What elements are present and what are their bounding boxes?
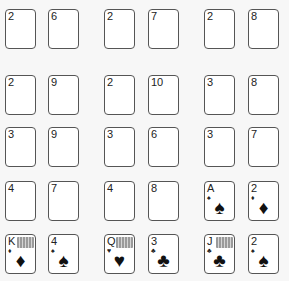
card-rank: Q (107, 236, 116, 247)
card-3[interactable]: 3 (204, 127, 235, 167)
card-rank: 4 (8, 183, 14, 194)
card-4[interactable]: 4 (5, 181, 36, 221)
card-3-of-clubs[interactable]: 3♣♣ (148, 234, 179, 274)
card-rank: 2 (107, 77, 113, 88)
diamonds-icon: ♦ (6, 251, 35, 270)
card-rank: 3 (151, 236, 157, 247)
diamonds-icon: ♦ (249, 198, 278, 217)
face-card-portrait-icon (17, 237, 34, 248)
card-rank: 7 (151, 11, 157, 22)
card-rank: 6 (151, 129, 157, 140)
card-rank: 2 (8, 77, 14, 88)
card-j-of-clubs[interactable]: J♣♣ (204, 234, 235, 274)
card-2-of-diamonds[interactable]: 2♦♦ (248, 181, 279, 221)
card-rank: 9 (51, 77, 57, 88)
card-rank: 8 (151, 183, 157, 194)
card-rank: 8 (251, 77, 257, 88)
card-3[interactable]: 3 (104, 127, 135, 167)
card-6[interactable]: 6 (148, 127, 179, 167)
card-2[interactable]: 2 (204, 9, 235, 49)
face-card-portrait-icon (116, 237, 133, 248)
card-rank: 4 (107, 183, 113, 194)
card-rank: 9 (51, 129, 57, 140)
card-9[interactable]: 9 (48, 127, 79, 167)
card-7[interactable]: 7 (248, 127, 279, 167)
card-rank: 2 (107, 11, 113, 22)
card-rank: 7 (251, 129, 257, 140)
card-9[interactable]: 9 (48, 75, 79, 115)
card-8[interactable]: 8 (248, 9, 279, 49)
card-rank: 3 (8, 129, 14, 140)
card-2[interactable]: 2 (5, 75, 36, 115)
card-rank: 7 (51, 183, 57, 194)
card-rank: 2 (8, 11, 14, 22)
card-rank: 2 (251, 236, 257, 247)
card-2-of-spades[interactable]: 2♠♠ (248, 234, 279, 274)
card-7[interactable]: 7 (148, 9, 179, 49)
hearts-icon: ♥ (105, 251, 134, 270)
clubs-icon: ♣ (149, 251, 178, 270)
card-6[interactable]: 6 (48, 9, 79, 49)
card-2[interactable]: 2 (104, 9, 135, 49)
card-3[interactable]: 3 (204, 75, 235, 115)
face-card-portrait-icon (216, 237, 233, 248)
card-rank: 8 (251, 11, 257, 22)
card-rank: 6 (51, 11, 57, 22)
card-k-of-diamonds[interactable]: K♦♦ (5, 234, 36, 274)
clubs-icon: ♣ (205, 251, 234, 270)
card-rank: 10 (151, 77, 163, 88)
card-rank: 4 (51, 236, 57, 247)
card-rank: 3 (207, 77, 213, 88)
card-3[interactable]: 3 (5, 127, 36, 167)
card-2[interactable]: 2 (5, 9, 36, 49)
card-10[interactable]: 10 (148, 75, 179, 115)
card-rank: 3 (207, 129, 213, 140)
spades-icon: ♠ (249, 251, 278, 270)
spades-icon: ♠ (205, 198, 234, 217)
card-8[interactable]: 8 (148, 181, 179, 221)
card-rank: 2 (251, 183, 257, 194)
card-2[interactable]: 2 (104, 75, 135, 115)
card-8[interactable]: 8 (248, 75, 279, 115)
card-rank: 2 (207, 11, 213, 22)
card-7[interactable]: 7 (48, 181, 79, 221)
card-rank: J (207, 236, 213, 247)
card-rank: A (207, 183, 214, 194)
card-a-of-spades[interactable]: A♠♠ (204, 181, 235, 221)
card-rank: 3 (107, 129, 113, 140)
card-4-of-spades[interactable]: 4♠♠ (48, 234, 79, 274)
card-4[interactable]: 4 (104, 181, 135, 221)
spades-icon: ♠ (49, 251, 78, 270)
card-q-of-hearts[interactable]: Q♥♥ (104, 234, 135, 274)
card-rank: K (8, 236, 15, 247)
